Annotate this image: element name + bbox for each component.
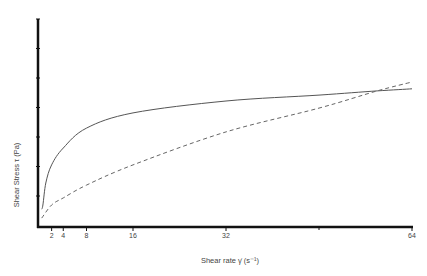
- solid-series-line: [42, 89, 412, 209]
- x-tick-label: 4: [61, 232, 65, 239]
- x-tick-label: 2: [50, 232, 54, 239]
- x-tick-label: 32: [222, 232, 230, 239]
- x-axis-label: Shear rate γ̇ (s⁻¹): [201, 256, 259, 265]
- y-axis-label: Shear Stress τ (Pa): [12, 143, 21, 208]
- x-tick-label: 64: [408, 232, 416, 239]
- x-tick-label: 16: [129, 232, 137, 239]
- x-tick-label: 8: [85, 232, 89, 239]
- dashed-series-line: [42, 82, 412, 218]
